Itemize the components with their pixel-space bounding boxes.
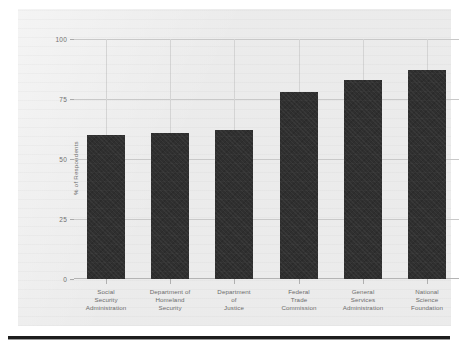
x-tick-label: Department ofHomelandSecurity xyxy=(138,288,202,313)
x-tick-label: NationalScienceFoundation xyxy=(395,288,459,313)
x-tick-mark xyxy=(106,279,107,284)
bar xyxy=(215,130,253,279)
y-gridline xyxy=(74,99,459,100)
x-tick-mark xyxy=(170,279,171,284)
y-tick-mark xyxy=(70,279,74,280)
y-gridline xyxy=(74,39,459,40)
y-tick-mark xyxy=(70,99,74,100)
x-axis-baseline xyxy=(74,278,459,279)
y-tick-label: 0 xyxy=(63,276,67,283)
x-tick-mark xyxy=(427,279,428,284)
x-tick-label: SocialSecurityAdministration xyxy=(74,288,138,313)
y-gridline xyxy=(74,159,459,160)
chart-panel: % of Respondents 0255075100SocialSecurit… xyxy=(18,9,451,326)
bar xyxy=(280,92,318,279)
bar xyxy=(344,80,382,279)
y-tick-label: 50 xyxy=(59,156,67,163)
y-tick-mark xyxy=(70,39,74,40)
page-bottom-rule-shadow xyxy=(8,339,450,340)
bar xyxy=(87,135,125,279)
y-tick-label: 75 xyxy=(59,96,67,103)
x-tick-mark xyxy=(234,279,235,284)
x-tick-label-line: Foundation xyxy=(395,304,459,312)
x-tick-label-line: Administration xyxy=(331,304,395,312)
x-tick-label-line: Federal xyxy=(267,288,331,296)
x-tick-label: GeneralServicesAdministration xyxy=(331,288,395,313)
y-tick-mark xyxy=(70,219,74,220)
x-tick-mark xyxy=(363,279,364,284)
x-tick-label-line: of xyxy=(202,296,266,304)
y-tick-mark xyxy=(70,159,74,160)
y-tick-label: 100 xyxy=(56,36,67,43)
x-tick-label: DepartmentofJustice xyxy=(202,288,266,313)
x-tick-label-line: Security xyxy=(74,296,138,304)
bar xyxy=(151,133,189,279)
x-tick-label-line: Justice xyxy=(202,304,266,312)
x-tick-label-line: National xyxy=(395,288,459,296)
y-tick-label: 25 xyxy=(59,216,67,223)
x-tick-label-line: Social xyxy=(74,288,138,296)
plot-area: 0255075100SocialSecurityAdministrationDe… xyxy=(74,39,459,279)
x-tick-label-line: General xyxy=(331,288,395,296)
x-tick-label-line: Department of xyxy=(138,288,202,296)
x-tick-label-line: Homeland xyxy=(138,296,202,304)
x-tick-label-line: Science xyxy=(395,296,459,304)
x-tick-label-line: Commission xyxy=(267,304,331,312)
x-tick-label-line: Trade xyxy=(267,296,331,304)
x-tick-label-line: Department xyxy=(202,288,266,296)
x-tick-label-line: Security xyxy=(138,304,202,312)
x-tick-mark xyxy=(299,279,300,284)
x-tick-label-line: Services xyxy=(331,296,395,304)
x-tick-label-line: Administration xyxy=(74,304,138,312)
x-tick-label: FederalTradeCommission xyxy=(267,288,331,313)
bar xyxy=(408,70,446,279)
y-gridline xyxy=(74,219,459,220)
